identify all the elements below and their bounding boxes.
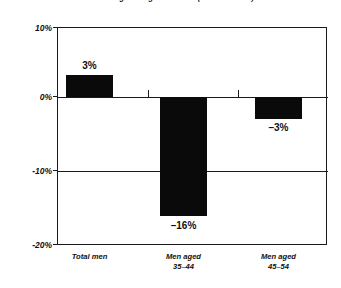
bar-value-total-men: 3% [55,60,125,71]
chart-title: Percentage change in income (truncated t… [0,0,341,2]
x-tick-2 [238,90,239,97]
category-label-line1: Men aged [166,252,201,261]
y-axis-label-neg10: -10% [0,166,52,176]
bar-total-men [66,75,113,97]
y-axis-label-0: 0% [0,92,52,102]
y-axis-label-neg20: -20% [0,240,52,250]
bar-value-men-45-54: –3% [244,122,314,133]
category-label-line1: Total men [72,252,108,261]
bar-chart: Percentage change in income (truncated t… [0,0,341,288]
category-label-line2: 35–44 [129,262,239,272]
category-label-men-35-44: Men aged 35–44 [129,252,239,272]
bar-value-men-35-44: –16% [149,220,219,231]
category-label-line1: Men aged [261,252,296,261]
category-label-men-45-54: Men aged 45–54 [224,252,334,272]
y-axis-label-10: 10% [0,23,52,33]
x-tick-1 [148,90,149,97]
bar-men-35-44 [160,97,207,216]
category-label-line2: 45–54 [224,262,334,272]
bar-men-45-54 [255,97,302,119]
